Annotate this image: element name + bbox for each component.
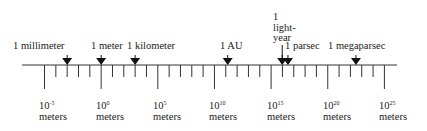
marker-label-megaparsec: 1 megaparsec: [328, 40, 385, 51]
marker-label-light-year: 1 light- year: [273, 12, 296, 44]
power-label-neg5: 10-5meters: [39, 100, 67, 122]
power-label-0: 100meters: [96, 100, 124, 122]
marker-label-millimeter: 1 millimeter: [13, 40, 65, 51]
marker-label-kilometer: 1 kilometer: [127, 40, 175, 51]
power-label-25: 1025meters: [379, 100, 407, 122]
power-label-20: 1020meters: [323, 100, 351, 122]
marker-label-parsec: 1 parsec: [285, 40, 320, 51]
marker-arrow-icon: [223, 58, 233, 65]
marker-label-au: 1 AU: [220, 40, 242, 51]
marker-arrow-icon: [96, 58, 106, 65]
power-label-10: 1010meters: [209, 100, 237, 122]
marker-arrow-icon: [351, 58, 361, 65]
marker-arrow-icon: [130, 58, 140, 65]
light-year-line-1: 1: [273, 12, 296, 23]
power-label-5: 105meters: [153, 100, 181, 122]
marker-arrow-icon: [62, 58, 72, 65]
log-scale-diagram: 1 millimeter 1 meter 1 kilometer 1 AU 1 …: [0, 0, 427, 131]
power-label-15: 1015meters: [267, 100, 295, 122]
marker-label-meter: 1 meter: [91, 40, 123, 51]
